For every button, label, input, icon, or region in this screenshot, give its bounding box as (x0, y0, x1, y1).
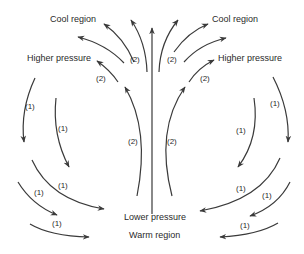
upper-right-arrow-near-center (159, 20, 178, 72)
cool-region-label-right: Cool region (212, 15, 258, 24)
warm-region-label: Warm region (129, 231, 180, 240)
flow-label-bottom-right-1: (1) (236, 185, 246, 193)
bottom-left-inflow-arrow-1 (32, 160, 104, 209)
cool-region-label-left: Cool region (50, 15, 96, 24)
flow-label-bottom-left-2: (1) (34, 189, 44, 197)
flow-label-left-inner: (1) (58, 125, 68, 133)
higher-pressure-label-right: Higher pressure (218, 54, 282, 63)
convection-circulation-diagram: Cool region Cool region Higher pressure … (0, 0, 304, 254)
flow-label-mid-right: (2) (167, 138, 177, 146)
flow-label-left-outer: (1) (25, 103, 35, 111)
flow-label-upper-right-outer: (2) (167, 56, 177, 64)
flow-label-upper-left-outer: (2) (130, 56, 140, 64)
flow-label-right-outer: (1) (270, 100, 280, 108)
flow-label-right-inner: (1) (236, 127, 246, 135)
higher-pressure-label-left: Higher pressure (27, 54, 91, 63)
flow-label-upper-left-inner: (2) (96, 75, 106, 83)
flow-label-bottom-left-1: (1) (58, 182, 68, 190)
flow-label-bottom-right-2: (1) (262, 192, 272, 200)
lower-pressure-label: Lower pressure (124, 213, 186, 222)
upper-left-arrow-near-center (131, 20, 147, 72)
flow-label-mid-left: (2) (128, 138, 138, 146)
flow-label-bottom-right-3: (1) (240, 222, 250, 230)
flow-label-bottom-left-3: (1) (52, 220, 62, 228)
right-outer-descending-arrow (273, 77, 288, 142)
flow-label-upper-right-inner: (2) (200, 75, 210, 83)
upper-right-arrow-to-cool-region (174, 24, 208, 52)
